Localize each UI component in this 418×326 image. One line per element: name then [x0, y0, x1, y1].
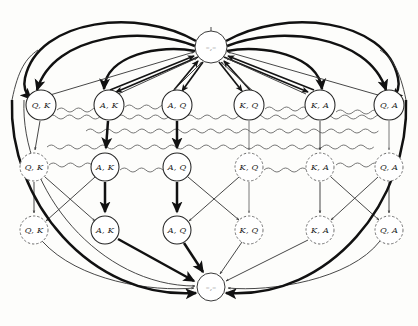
node-mid-qk-label: Q, K [25, 162, 44, 172]
graph-diagram: –,– Q, K A, K A, Q K, Q K, A [0, 0, 418, 326]
node-top-qa[interactable]: Q, A [374, 90, 404, 120]
wavy-mid-kq-ka [264, 168, 307, 172]
wavy-long-lower-band [47, 145, 374, 149]
arc-qa-bot-to-hub [228, 241, 380, 289]
arc-left-rim-thin-to-hub [24, 100, 195, 286]
node-top-ka-label: K, A [310, 100, 329, 110]
wavy-top-ka-qa [336, 110, 379, 114]
node-top-kq-label: K, Q [239, 100, 259, 110]
edge-qk-top-to-qk-mid [35, 121, 40, 150]
edge-ak-bot-to-hub [118, 239, 194, 281]
node-bot-qk[interactable]: Q, K [20, 216, 48, 244]
node-mid-qa-label: Q, A [380, 162, 398, 172]
node-bot-kq-label: K, Q [239, 225, 259, 235]
node-mid-kq-label: K, Q [239, 162, 259, 172]
arc-hub-to-qa-outer [226, 22, 399, 99]
node-hub-top[interactable]: –,– [195, 31, 227, 63]
wavy-top-qk-ak [57, 108, 100, 112]
node-mid-qa[interactable]: Q, A [375, 153, 403, 181]
node-bot-ak-label: A, K [95, 225, 115, 235]
node-mid-aq[interactable]: A, Q [163, 153, 191, 181]
wavy-top-kq-ka [265, 107, 308, 111]
node-bot-aq[interactable]: A, Q [163, 216, 191, 244]
node-mid-qk[interactable]: Q, K [20, 153, 48, 181]
node-bot-qa[interactable]: Q, A [375, 216, 403, 244]
edge-ak-top-to-ak-mid [106, 121, 108, 148]
node-mid-ak[interactable]: A, K [91, 153, 119, 181]
node-top-ka[interactable]: K, A [305, 90, 335, 120]
node-top-qk[interactable]: Q, K [26, 90, 56, 120]
wavy-mid-qk-ak [49, 163, 92, 167]
hub-top-label: –,– [206, 43, 217, 52]
node-bot-qa-label: Q, A [380, 225, 398, 235]
node-mid-ak-label: A, K [95, 162, 115, 172]
arc-right-rim-to-hub [226, 100, 406, 293]
node-top-ak-label: A, K [99, 100, 119, 110]
graph-canvas: –,– Q, K A, K A, Q K, Q K, A [0, 0, 418, 326]
node-bot-ka-label: K, A [310, 225, 329, 235]
node-bot-qk-label: Q, K [25, 225, 44, 235]
node-hub-bottom[interactable]: –,– [197, 273, 225, 301]
node-mid-ka[interactable]: K, A [306, 153, 334, 181]
edge-ka-bot-to-hub [226, 240, 308, 281]
node-top-qk-label: Q, K [32, 100, 51, 110]
node-top-qa-label: Q, A [380, 100, 398, 110]
node-top-aq-label: A, Q [167, 100, 187, 110]
node-mid-aq-label: A, Q [167, 162, 187, 172]
spoke-kq-to-hub-thin [221, 62, 254, 92]
node-top-ak[interactable]: A, K [94, 90, 124, 120]
node-mid-kq[interactable]: K, Q [235, 153, 263, 181]
node-mid-ka-label: K, A [310, 162, 329, 172]
arc-hub-to-ka-outer [227, 49, 322, 89]
arc-hub-to-qk-inner [37, 36, 195, 90]
node-bot-ak[interactable]: A, K [91, 216, 119, 244]
node-bot-aq-label: A, Q [167, 225, 187, 235]
node-bot-ka[interactable]: K, A [306, 216, 334, 244]
node-bot-kq[interactable]: K, Q [235, 216, 263, 244]
hub-bottom-label: –,– [206, 283, 217, 292]
node-top-kq[interactable]: K, Q [234, 90, 264, 120]
edges-middle-to-bottom [34, 177, 389, 221]
edge-aq-bot-to-hub [184, 243, 203, 272]
wavy-mid-ka-qa [336, 163, 379, 167]
wavy-mid-ak-aq [120, 168, 163, 172]
edge-kq-bot-to-hub [220, 242, 242, 274]
row-bottom: Q, K A, K A, Q K, Q K, A Q, A [20, 216, 403, 244]
wavy-long-mid-band [86, 129, 378, 133]
arc-hub-to-qk-outer [24, 22, 196, 99]
node-top-aq[interactable]: A, Q [162, 90, 192, 120]
